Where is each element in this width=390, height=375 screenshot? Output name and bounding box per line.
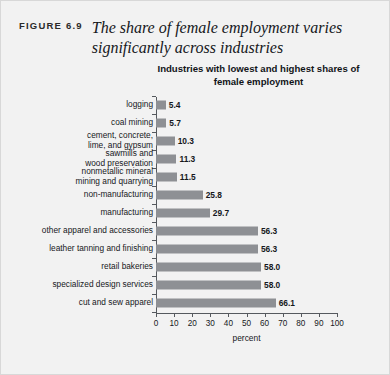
bar (156, 119, 166, 128)
bar-value-label: 11.3 (179, 154, 195, 164)
category-label: leather tanning and finishing (23, 244, 153, 254)
x-axis-tick-label: 40 (224, 319, 233, 328)
y-axis-tick (152, 222, 156, 223)
y-axis-tick (152, 204, 156, 205)
bar (156, 209, 210, 218)
x-axis-tick (319, 313, 320, 317)
x-axis-tick (247, 313, 248, 317)
bar-value-label: 66.1 (279, 298, 295, 308)
y-axis-tick (152, 186, 156, 187)
y-axis-tick (152, 114, 156, 115)
bar (156, 227, 258, 236)
x-axis-tick (301, 313, 302, 317)
bar-value-label: 29.7 (213, 208, 229, 218)
x-axis-tick-label: 100 (330, 319, 344, 328)
y-axis-tick (152, 294, 156, 295)
x-axis-tick-label: 30 (206, 319, 215, 328)
y-axis-tick (152, 258, 156, 259)
x-axis-tick-label: 10 (170, 319, 179, 328)
bar-value-label: 10.3 (178, 136, 194, 146)
category-label: other apparel and accessories (23, 226, 153, 236)
bar (156, 191, 203, 200)
bar (156, 245, 258, 254)
bar (156, 173, 177, 182)
x-axis-title: percent (156, 333, 337, 343)
x-axis-tick (265, 313, 266, 317)
x-axis-tick (337, 313, 338, 317)
bar (156, 299, 276, 308)
x-axis-tick (228, 313, 229, 317)
category-label: non-manufacturing (23, 190, 153, 200)
x-axis-tick-label: 0 (154, 319, 159, 328)
x-axis-tick (192, 313, 193, 317)
chart-plot-area: 5.45.710.311.311.525.829.756.356.358.058… (1, 1, 390, 375)
bar-value-label: 11.5 (180, 172, 196, 182)
bar-value-label: 56.3 (261, 244, 277, 254)
x-axis-tick-label: 90 (314, 319, 323, 328)
bar-value-label: 56.3 (261, 226, 277, 236)
x-axis-tick-label: 60 (260, 319, 269, 328)
category-label: retail bakeries (23, 262, 153, 272)
bar-value-label: 5.7 (169, 118, 181, 128)
x-axis-tick-label: 80 (296, 319, 305, 328)
category-label: manufacturing (23, 208, 153, 218)
bar (156, 155, 176, 164)
x-axis-tick-label: 20 (188, 319, 197, 328)
category-label: nonmetallic mineral mining and quarrying (23, 167, 153, 187)
category-label: specialized design services (23, 280, 153, 290)
x-axis-tick-label: 70 (278, 319, 287, 328)
bar (156, 263, 261, 272)
category-label: cut and sew apparel (23, 298, 153, 308)
x-axis-tick (174, 313, 175, 317)
figure-panel: FIGURE 6.9 The share of female employmen… (0, 0, 390, 375)
bar-value-label: 5.4 (169, 100, 181, 110)
x-axis-tick-label: 50 (242, 319, 251, 328)
bar-value-label: 58.0 (264, 280, 280, 290)
bar (156, 137, 175, 146)
bar-value-label: 25.8 (206, 190, 222, 200)
x-axis-tick (210, 313, 211, 317)
bar (156, 281, 261, 290)
category-label: coal mining (23, 118, 153, 128)
bar-value-label: 58.0 (264, 262, 280, 272)
x-axis-tick (283, 313, 284, 317)
category-label: logging (23, 100, 153, 110)
y-axis-tick (152, 240, 156, 241)
y-axis-tick (152, 276, 156, 277)
y-axis-tick (152, 96, 156, 97)
bar (156, 101, 166, 110)
x-axis-tick (156, 313, 157, 317)
